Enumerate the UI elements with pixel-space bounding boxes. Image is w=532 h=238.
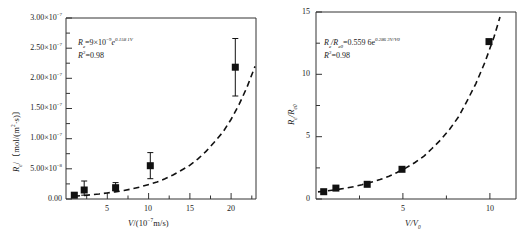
right-xtick-label-0: 5 bbox=[393, 204, 413, 213]
left-fit-curve bbox=[74, 66, 255, 196]
left-fit-equation: Re=9×10−9e0.158 1V R2=0.98 bbox=[78, 36, 133, 62]
left-ytick-label-1: 2.50×10−7 bbox=[10, 43, 62, 52]
right-x-axis-title: V/V0 bbox=[405, 218, 421, 228]
right-y-axis-title: Re/Re0 bbox=[286, 104, 296, 125]
left-error-bars bbox=[71, 39, 238, 198]
left-y-ticks bbox=[66, 18, 72, 199]
right-xtick-label-1: 10 bbox=[480, 204, 500, 213]
two-panel-figure: 3.00×10−7 2.50×10−7 2.00×10−7 1.50×10−7 … bbox=[0, 0, 532, 238]
left-x-axis-title: V/(10−7m/s) bbox=[128, 218, 169, 228]
left-r-squared: R2=0.98 bbox=[78, 49, 133, 62]
left-ytick-label-6: 0.00 bbox=[10, 194, 62, 203]
left-data-markers bbox=[71, 64, 239, 199]
right-ytick-label-3: 0 bbox=[288, 194, 310, 203]
left-xtick-label-0: 5 bbox=[97, 204, 117, 213]
chart-panel-right: 15 10 5 0 5 10 Re/Re0 V/V0 Re/Re0=0.559 … bbox=[266, 0, 532, 238]
right-ytick-label-0: 15 bbox=[288, 7, 310, 16]
left-ytick-label-0: 3.00×10−7 bbox=[10, 13, 62, 22]
left-y-axis-title: Re/〔mol/(m2·s)〕 bbox=[9, 106, 21, 172]
left-xtick-label-3: 20 bbox=[221, 204, 241, 213]
right-ytick-label-2: 5 bbox=[288, 131, 310, 140]
right-y-minor-ticks bbox=[316, 43, 320, 168]
left-ytick-label-2: 2.00×10−7 bbox=[10, 73, 62, 82]
left-x-minor-ticks bbox=[87, 196, 252, 200]
right-ytick-label-1: 10 bbox=[288, 69, 310, 78]
right-fit-equation: Re/Re0=0.559 6e0.286 3V/V0 R2=0.98 bbox=[324, 36, 400, 62]
right-r-squared: R2=0.98 bbox=[324, 49, 400, 62]
left-xtick-label-2: 15 bbox=[180, 204, 200, 213]
chart-panel-left: 3.00×10−7 2.50×10−7 2.00×10−7 1.50×10−7 … bbox=[0, 0, 266, 238]
left-xtick-label-1: 10 bbox=[138, 204, 158, 213]
